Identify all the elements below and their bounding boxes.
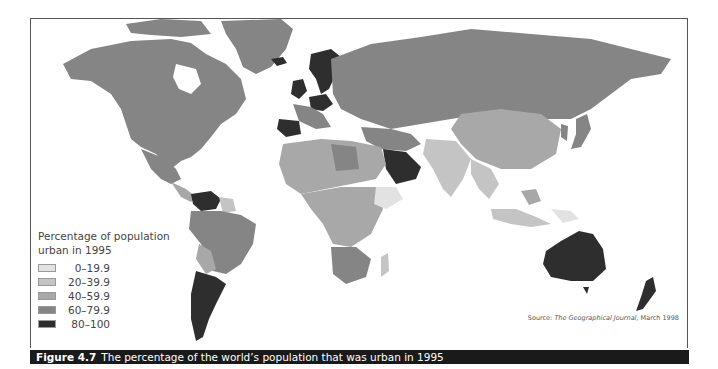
legend-label: 20–39.9 <box>62 276 110 288</box>
region-greenland <box>221 19 293 74</box>
map-frame: Percentage of population urban in 1995 0… <box>30 18 688 348</box>
legend-swatch-80-100 <box>38 320 56 328</box>
region-new-zealand <box>636 277 656 311</box>
figure-number: Figure 4.7 <box>36 351 96 363</box>
region-india <box>423 139 471 197</box>
source-prefix: Source: <box>528 314 553 322</box>
region-saudi-arabia <box>383 149 421 184</box>
region-guianas <box>219 197 236 213</box>
legend-label: 80–100 <box>62 318 110 330</box>
region-southern-africa <box>331 247 371 284</box>
legend-item: 0–19.9 <box>38 261 218 275</box>
legend-swatch-0-19 <box>38 264 56 272</box>
region-madagascar <box>381 253 389 277</box>
region-ethiopia <box>374 187 403 209</box>
region-spain <box>277 119 301 137</box>
region-papua-new-guinea <box>551 209 579 223</box>
legend-item: 40–59.9 <box>38 289 218 303</box>
map-legend: Percentage of population urban in 1995 0… <box>38 229 218 331</box>
region-north-america <box>63 39 246 169</box>
legend-title-line1: Percentage of population <box>38 229 218 243</box>
region-borneo <box>521 189 541 205</box>
legend-title-line2: urban in 1995 <box>38 243 218 257</box>
legend-swatch-60-79 <box>38 306 56 314</box>
region-indonesia <box>491 209 551 227</box>
figure-caption: The percentage of the world’s population… <box>101 351 443 363</box>
source-date: March 1998 <box>641 314 679 322</box>
legend-items: 0–19.9 20–39.9 40–59.9 60–79.9 80–100 <box>38 261 218 331</box>
legend-label: 40–59.9 <box>62 290 110 302</box>
region-central-africa <box>301 187 383 247</box>
legend-label: 0–19.9 <box>62 262 110 274</box>
region-tasmania <box>583 287 589 294</box>
region-canada-arctic <box>126 19 211 37</box>
legend-item: 80–100 <box>38 317 218 331</box>
source-note: Source: The Geographical Journal, March … <box>528 314 679 322</box>
region-uk <box>291 79 307 99</box>
legend-swatch-20-39 <box>38 278 56 286</box>
region-venezuela <box>191 191 221 211</box>
region-australia <box>543 231 606 281</box>
region-korea <box>561 124 568 141</box>
legend-swatch-40-59 <box>38 292 56 300</box>
legend-label: 60–79.9 <box>62 304 110 316</box>
legend-item: 60–79.9 <box>38 303 218 317</box>
figure-caption-bar: Figure 4.7The percentage of the world’s … <box>30 350 689 364</box>
region-japan <box>571 114 591 149</box>
source-publication: The Geographical Journal, <box>554 314 638 322</box>
legend-item: 20–39.9 <box>38 275 218 289</box>
